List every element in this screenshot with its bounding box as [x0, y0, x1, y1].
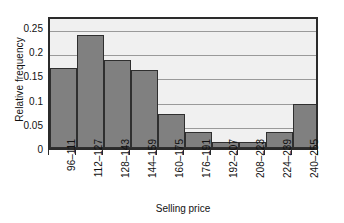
plot-area — [48, 17, 318, 150]
y-tick-label: 0.15 — [24, 72, 43, 82]
x-tick-label: 112–127 — [93, 139, 104, 199]
histogram-chart: Relative frequency 00.050.10.150.20.25 9… — [0, 0, 344, 223]
y-tick-label: 0.2 — [29, 48, 43, 58]
y-tick-label: 0.1 — [29, 97, 43, 107]
x-tick-label: 192–207 — [228, 139, 239, 199]
bar — [104, 60, 131, 148]
x-axis-title: Selling price — [48, 203, 318, 214]
x-tick-label: 160–175 — [174, 139, 185, 199]
x-tick-label: 96–111 — [66, 139, 77, 199]
x-tick-label: 224–239 — [282, 139, 293, 199]
y-axis-tick-labels: 00.050.10.150.20.25 — [0, 0, 46, 223]
x-tick-label: 176–191 — [201, 139, 212, 199]
y-tick-label: 0.25 — [24, 24, 43, 34]
y-tick-label: 0 — [37, 145, 43, 155]
x-tick-label: 240–255 — [309, 139, 320, 199]
bar — [131, 70, 158, 148]
y-tick-label: 0.05 — [24, 121, 43, 131]
bar — [50, 68, 77, 148]
bar-series — [50, 19, 316, 148]
x-tick-label: 144–159 — [147, 139, 158, 199]
x-tick-label: 208–223 — [255, 139, 266, 199]
bar — [77, 35, 104, 148]
x-axis-tick-labels: 96–111112–127128–143144–159160–175176–19… — [48, 155, 318, 199]
x-tick-label: 128–143 — [120, 139, 131, 199]
